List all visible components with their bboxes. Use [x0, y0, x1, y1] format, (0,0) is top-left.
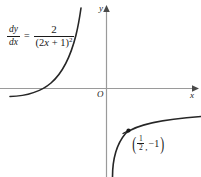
y-axis-label: y — [99, 3, 103, 13]
point-coordinate-label: ( 1 2 , −1 ) — [131, 134, 166, 153]
coordinate-close-paren: ) — [160, 134, 164, 153]
coordinate-x-fraction: 1 2 — [137, 135, 144, 152]
formula-rhs-den-exponent: 2 — [69, 36, 73, 44]
y-axis-arrowhead — [103, 5, 110, 12]
coordinate-x-numerator: 1 — [139, 135, 143, 143]
coordinate-x-denominator: 2 — [139, 144, 143, 152]
formula-lhs-fraction: dy dx — [7, 25, 20, 47]
coordinate-open-paren: ( — [132, 134, 136, 153]
derivative-formula: dy dx = 2 (2x + 1)2 — [7, 24, 74, 49]
curve-left-branch — [10, 8, 81, 97]
x-axis-label: x — [190, 90, 194, 100]
formula-lhs-numerator: dy — [7, 25, 20, 36]
origin-label: O — [97, 89, 104, 99]
formula-equals-sign: = — [24, 31, 30, 41]
coordinate-comma: , — [145, 142, 147, 153]
formula-rhs-denominator: (2x + 1)2 — [34, 37, 75, 49]
figure-container: dy dx = 2 (2x + 1)2 y x O ( 1 2 , −1 ) — [0, 0, 201, 177]
formula-lhs-denominator: dx — [7, 37, 20, 48]
formula-rhs-den-rest: + 1) — [49, 37, 69, 48]
coordinate-y-value: −1 — [149, 138, 160, 149]
formula-rhs-fraction: 2 (2x + 1)2 — [34, 24, 75, 49]
formula-rhs-numerator: 2 — [49, 24, 59, 36]
